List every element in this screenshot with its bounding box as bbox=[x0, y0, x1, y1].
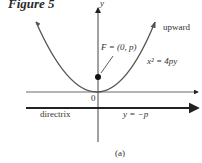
focus-label: F = (0, p) bbox=[101, 42, 137, 52]
focus-point bbox=[95, 74, 101, 80]
directrix-equation-label: y = −p bbox=[123, 109, 148, 119]
parabola-curve bbox=[36, 22, 155, 92]
origin-label: 0 bbox=[91, 93, 96, 103]
figure-caption: (a) bbox=[115, 148, 125, 158]
direction-label: upward bbox=[163, 22, 190, 32]
focus-pointer bbox=[101, 56, 113, 73]
equation-label: x² = 4py bbox=[147, 56, 177, 66]
y-axis-label: y bbox=[100, 0, 104, 8]
directrix-label: directrix bbox=[40, 109, 71, 119]
